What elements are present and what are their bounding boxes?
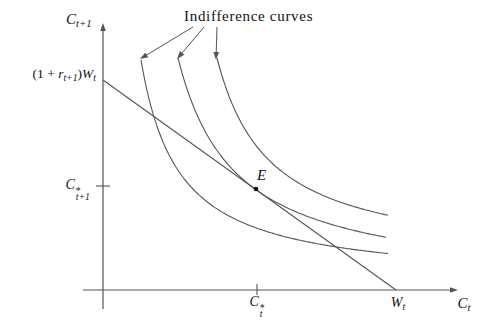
x-axis xyxy=(83,287,458,293)
c-star-t1-subscript: t+1 xyxy=(76,194,90,200)
equilibrium-point xyxy=(254,187,259,192)
c-star-t1-var: C xyxy=(65,177,74,192)
w-t-subscript: t xyxy=(402,301,405,312)
wealth-var: W xyxy=(82,66,93,81)
endowment-open-paren: (1 + xyxy=(33,66,59,81)
x-axis-label: Ct xyxy=(452,295,476,314)
endowment-intercept-label: (1 + rt+1)Wt xyxy=(10,67,96,83)
title-indifference-curves: Indifference curves xyxy=(184,8,313,25)
x-axis-var: C xyxy=(457,295,467,311)
title-text: Indifference curves xyxy=(184,8,313,24)
indifference-curve-1 xyxy=(141,60,388,254)
budget-line xyxy=(103,80,396,290)
x-axis-var-subscript: t xyxy=(468,301,471,313)
wealth-subscript: t xyxy=(93,72,96,83)
y-axis-label: Ct+1 xyxy=(66,11,92,30)
equilibrium-letter: E xyxy=(257,167,266,183)
wealth-intercept-label: Wt xyxy=(386,295,410,312)
indifference-curve-3 xyxy=(217,58,388,215)
plot-canvas xyxy=(0,0,482,331)
c-star-t-label: C*t xyxy=(242,294,272,317)
y-axis-var: C xyxy=(66,11,76,27)
equilibrium-label: E xyxy=(257,167,266,184)
indifference-curve-2 xyxy=(178,58,386,237)
interest-rate-subscript: t+1 xyxy=(63,72,77,83)
c-star-t1-label: C*t+1 xyxy=(54,177,90,200)
w-t-var: W xyxy=(391,295,403,310)
y-axis xyxy=(100,23,106,309)
indifference-curve-figure: Indifference curves Ct+1 (1 + rt+1)Wt C*… xyxy=(0,0,482,331)
c-star-t-subscript: t xyxy=(260,311,263,317)
c-star-t-var: C xyxy=(249,294,258,309)
y-axis-var-subscript: t+1 xyxy=(76,17,92,29)
indifference-arrow-1 xyxy=(140,27,193,59)
indifference-arrow-3 xyxy=(213,27,219,60)
indifference-arrow-2 xyxy=(177,27,204,59)
